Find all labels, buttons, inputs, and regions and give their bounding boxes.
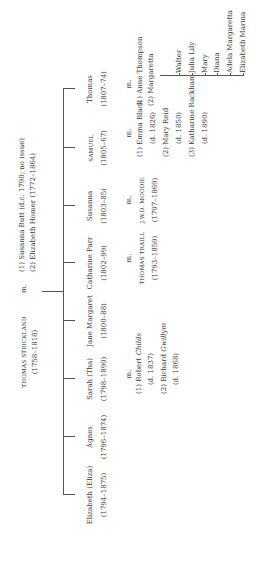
spouse-note: (1797–1869) bbox=[151, 178, 160, 223]
child-tick bbox=[63, 494, 75, 495]
child-tick bbox=[63, 88, 75, 89]
child-dates: (1805–67) bbox=[100, 130, 109, 166]
patriarch-dates: (1758–1818) bbox=[31, 330, 40, 375]
child-dates: (1796–1874) bbox=[100, 415, 109, 460]
grandchild-name: Adela Margaretta bbox=[226, 10, 235, 73]
child-name: Agnes bbox=[86, 426, 95, 448]
patriarch-spouse-2: (2) Elizabeth Homer (1772–1864) bbox=[29, 153, 38, 272]
child-dates: (1807–74) bbox=[100, 71, 109, 107]
grandchild-name: Diana bbox=[213, 52, 222, 73]
spouse-note: (d. 1826) bbox=[149, 112, 158, 144]
spouse-note: (d. 1890) bbox=[201, 112, 210, 144]
child-name: Elizabeth (Eliza) bbox=[86, 466, 95, 525]
grandchild-name: Walter bbox=[175, 50, 184, 73]
child-dates: (1798–1890) bbox=[100, 357, 109, 402]
marriage-marker: m. bbox=[125, 196, 134, 205]
child-tick bbox=[63, 320, 75, 321]
spouse-label: (2) Richard Gwillym bbox=[160, 323, 169, 394]
grandchild-tick bbox=[205, 73, 206, 76]
spouse-label: (1) Anne Thompson bbox=[136, 37, 145, 106]
spouse-label: (2) Margaretta bbox=[147, 53, 156, 106]
child-tick bbox=[63, 147, 75, 148]
child-name: Thomas bbox=[86, 75, 95, 103]
child-tick bbox=[63, 262, 75, 263]
grandchild-name: Julia Lily bbox=[188, 42, 197, 73]
marriage-marker: m. bbox=[125, 80, 134, 89]
spouse-note: (1793–1859) bbox=[151, 236, 160, 281]
children-bar-line bbox=[63, 88, 64, 495]
grandchild-tick bbox=[217, 73, 218, 76]
child-tick bbox=[63, 436, 75, 437]
grandchild-tick bbox=[179, 73, 180, 76]
patriarch-name: THOMAS STRICKLAND bbox=[20, 316, 29, 388]
family-tree-diagram: THOMAS STRICKLAND (1758–1818) m. (1) Sus… bbox=[0, 0, 268, 574]
patriarch-marriage-marker: m. bbox=[20, 284, 29, 293]
marriage-marker: m. bbox=[125, 129, 134, 138]
child-tick bbox=[63, 378, 75, 379]
child-name: Jane Margaret bbox=[86, 295, 95, 347]
spouse-label: J.W.D. MOODIE bbox=[138, 177, 147, 223]
child-dates: (1794–1875) bbox=[100, 473, 109, 518]
child-dates: (1800–88) bbox=[100, 303, 109, 339]
grandchild-tick bbox=[192, 73, 193, 76]
child-name: Sarah (Tha) bbox=[86, 358, 95, 400]
parent-stub-line bbox=[42, 291, 63, 292]
spouse-note: (d. 1868) bbox=[172, 353, 181, 385]
child-tick bbox=[63, 205, 75, 206]
grandchild-tick bbox=[243, 73, 244, 76]
patriarch-spouse-1: (1) Susanna Butt (d.c. 1790; no issue) bbox=[18, 138, 27, 272]
child-name: Susanna bbox=[86, 191, 95, 221]
child-name: SAMUEL bbox=[87, 134, 96, 161]
child-dates: (1803–85) bbox=[100, 188, 109, 224]
child-name: Catharine Parr bbox=[86, 237, 95, 290]
marriage-marker: m. bbox=[125, 254, 134, 263]
spouse-label: (2) Mary Reid bbox=[162, 108, 171, 157]
spouse-label: (3) Katharine Rackham bbox=[188, 74, 197, 157]
grandchild-name: Elizabeth Marina bbox=[239, 12, 248, 73]
spouse-label: (1) Robert Childs bbox=[135, 333, 144, 394]
marriage-marker: m. bbox=[125, 370, 134, 379]
spouse-note: (d. 1850) bbox=[175, 112, 184, 144]
grandchild-name: Mary bbox=[201, 54, 210, 73]
grandchildren-bar-line bbox=[160, 75, 244, 76]
spouse-note: (d. 1837) bbox=[147, 353, 156, 385]
grandchild-tick bbox=[230, 73, 231, 76]
spouse-label: (1) Emma Black bbox=[136, 100, 145, 157]
spouse-label: THOMAS TRAILL bbox=[138, 232, 147, 285]
child-dates: (1802–99) bbox=[100, 245, 109, 281]
